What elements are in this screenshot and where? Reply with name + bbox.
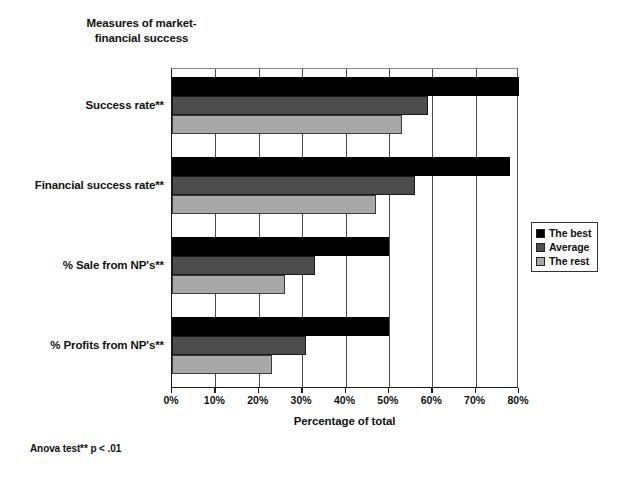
bar bbox=[172, 176, 415, 195]
x-axis-tick-label: 10% bbox=[204, 394, 225, 406]
x-axis-tick-label: 20% bbox=[247, 394, 268, 406]
x-axis-tick-label: 30% bbox=[291, 394, 312, 406]
x-axis-tick bbox=[388, 388, 389, 393]
bar bbox=[172, 115, 402, 134]
bar-group bbox=[172, 317, 517, 374]
category-axis-labels: Success rate**Financial success rate**% … bbox=[0, 68, 164, 388]
legend-label: Average bbox=[549, 241, 589, 253]
chart-title: Measures of market- financial success bbox=[44, 16, 239, 46]
x-axis-tick-label: 0% bbox=[163, 394, 178, 406]
bar bbox=[172, 77, 519, 96]
bar bbox=[172, 275, 285, 294]
bar-group bbox=[172, 237, 517, 294]
x-axis-tick-labels: 0%10%20%30%40%50%60%70%80% bbox=[171, 394, 518, 410]
chart-figure: Measures of market- financial success Su… bbox=[0, 0, 633, 480]
x-axis-tick bbox=[171, 388, 172, 393]
chart-title-line-1: Measures of market- bbox=[44, 16, 239, 31]
legend-swatch bbox=[536, 257, 545, 266]
legend-item: Average bbox=[536, 240, 591, 254]
x-axis-tick-label: 60% bbox=[421, 394, 442, 406]
x-axis-tick bbox=[214, 388, 215, 393]
legend-swatch bbox=[536, 243, 545, 252]
bar bbox=[172, 355, 272, 374]
bar bbox=[172, 237, 389, 256]
category-label: % Profits from NP's** bbox=[4, 338, 164, 352]
x-axis-tick bbox=[258, 388, 259, 393]
category-label: Success rate** bbox=[4, 98, 164, 112]
bar bbox=[172, 256, 315, 275]
bar bbox=[172, 336, 306, 355]
bar bbox=[172, 96, 428, 115]
bar bbox=[172, 157, 510, 176]
bars-layer bbox=[172, 69, 517, 387]
x-axis-title: Percentage of total bbox=[171, 415, 518, 427]
chart-title-line-2: financial success bbox=[44, 31, 239, 46]
bar-group bbox=[172, 77, 517, 134]
category-label: % Sale from NP's** bbox=[4, 258, 164, 272]
chart-legend: The bestAverageThe rest bbox=[531, 222, 598, 272]
x-axis-tick bbox=[518, 388, 519, 393]
x-axis-tick-label: 80% bbox=[507, 394, 528, 406]
x-axis-tick-label: 50% bbox=[377, 394, 398, 406]
plot-area bbox=[171, 68, 518, 388]
x-axis-tick bbox=[475, 388, 476, 393]
x-axis-tick-label: 40% bbox=[334, 394, 355, 406]
chart-footnote: Anova test** p < .01 bbox=[30, 443, 121, 454]
x-axis-tick-label: 70% bbox=[464, 394, 485, 406]
legend-label: The best bbox=[549, 227, 591, 239]
legend-item: The best bbox=[536, 226, 591, 240]
x-axis-tick bbox=[301, 388, 302, 393]
legend-label: The rest bbox=[549, 255, 589, 267]
category-label: Financial success rate** bbox=[4, 178, 164, 192]
legend-item: The rest bbox=[536, 254, 591, 268]
x-axis-tick bbox=[431, 388, 432, 393]
bar bbox=[172, 195, 376, 214]
legend-swatch bbox=[536, 229, 545, 238]
x-axis-tick bbox=[345, 388, 346, 393]
bar bbox=[172, 317, 389, 336]
bar-group bbox=[172, 157, 517, 214]
